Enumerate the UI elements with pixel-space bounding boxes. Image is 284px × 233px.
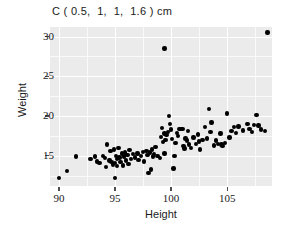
- scatter-point: [163, 138, 167, 142]
- scatter-point: [207, 107, 211, 111]
- grid-minor-horizontal: [50, 56, 272, 57]
- scatter-point: [189, 146, 193, 150]
- grid-major-horizontal: [50, 37, 272, 38]
- scatter-point: [218, 131, 222, 135]
- scatter-point: [191, 135, 195, 139]
- scatter-point: [173, 141, 177, 145]
- scatter-point: [97, 161, 101, 165]
- plot-panel: [50, 27, 272, 186]
- x-axis-tick-label: 105: [212, 192, 242, 204]
- y-axis-tick-label: 20: [24, 109, 54, 121]
- scatter-point: [241, 128, 245, 132]
- x-axis-tick-mark: [227, 187, 228, 191]
- grid-minor-vertical: [255, 27, 256, 186]
- scatter-point: [105, 142, 109, 146]
- scatter-point: [250, 130, 254, 134]
- scatter-point: [126, 162, 130, 166]
- x-axis-tick-mark: [114, 187, 115, 191]
- scatter-point: [139, 154, 143, 158]
- scatter-point: [169, 127, 173, 131]
- scatter-point: [227, 135, 231, 139]
- grid-major-horizontal: [50, 76, 272, 77]
- scatter-point: [104, 165, 108, 169]
- scatter-point: [160, 126, 164, 130]
- scatter-point: [265, 30, 269, 34]
- scatter-point: [162, 46, 166, 50]
- scatter-point: [205, 136, 209, 140]
- x-axis-label: Height: [50, 208, 272, 220]
- scatter-point: [254, 113, 258, 117]
- scatter-point: [121, 163, 125, 167]
- scatter-point: [234, 131, 238, 135]
- scatter-point: [208, 130, 212, 134]
- scatter-point: [171, 166, 175, 170]
- scatter-point: [65, 169, 69, 173]
- scatter-point: [153, 145, 157, 149]
- scatter-point: [88, 157, 92, 161]
- scatter-point: [162, 151, 166, 155]
- grid-minor-horizontal: [50, 176, 272, 177]
- y-axis-tick-label: 30: [24, 30, 54, 42]
- scatter-point: [176, 134, 180, 138]
- y-axis-label: Weight: [16, 60, 28, 140]
- x-axis-tick-mark: [170, 187, 171, 191]
- scatter-point: [263, 129, 267, 133]
- scatter-point: [115, 164, 119, 168]
- x-axis-tick-mark: [58, 187, 59, 191]
- chart-title: C ( 0.5, 1, 1, 1.6 ) cm: [52, 5, 172, 17]
- grid-minor-horizontal: [50, 96, 272, 97]
- scatter-point: [149, 167, 153, 171]
- scatter-point: [172, 154, 176, 158]
- scatter-point: [186, 129, 190, 133]
- scatter-point: [196, 132, 200, 136]
- x-axis-tick-label: 90: [44, 192, 74, 204]
- scatter-point: [209, 120, 213, 124]
- y-axis-tick-label: 25: [24, 69, 54, 81]
- scatter-point: [57, 176, 61, 180]
- scatter-point: [203, 125, 207, 129]
- x-axis-tick-label: 100: [156, 192, 186, 204]
- x-axis-tick-label: 95: [100, 192, 130, 204]
- grid-minor-vertical: [87, 27, 88, 186]
- grid-major-vertical: [171, 27, 172, 186]
- y-axis-tick-label: 15: [24, 149, 54, 161]
- scatter-point: [116, 146, 120, 150]
- scatter-point: [93, 154, 97, 158]
- grid-major-vertical: [59, 27, 60, 186]
- scatter-point: [136, 158, 140, 162]
- scatter-point: [74, 154, 78, 158]
- scatter-point: [198, 147, 202, 151]
- scatter-point: [158, 156, 162, 160]
- scatter-point: [236, 124, 240, 128]
- chart-figure: C ( 0.5, 1, 1, 1.6 ) cm 1520253090951001…: [0, 0, 284, 233]
- grid-major-horizontal: [50, 116, 272, 117]
- grid-minor-vertical: [199, 27, 200, 186]
- scatter-point: [180, 127, 184, 131]
- grid-major-vertical: [227, 27, 228, 186]
- scatter-point: [245, 122, 249, 126]
- scatter-point: [113, 176, 117, 180]
- scatter-point: [142, 159, 146, 163]
- scatter-point: [182, 146, 186, 150]
